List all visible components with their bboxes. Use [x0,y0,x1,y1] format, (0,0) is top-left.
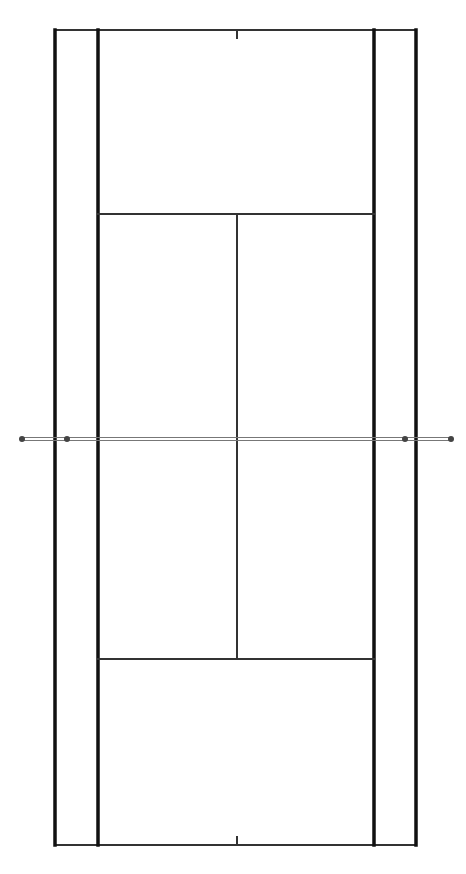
net-post-4 [448,436,454,442]
net-post-1 [19,436,25,442]
net-post-3 [402,436,408,442]
tennis-court-diagram [0,0,466,874]
net-post-2 [64,436,70,442]
